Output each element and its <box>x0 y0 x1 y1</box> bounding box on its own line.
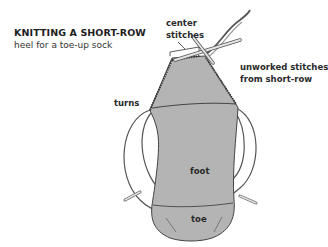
label-toe: toe <box>191 213 207 225</box>
label-center-stitches: center stitches <box>166 17 204 41</box>
label-turns: turns <box>114 97 139 109</box>
label-foot: foot <box>190 165 209 177</box>
label-unworked-stitches: unworked stitches from short-row <box>240 61 328 85</box>
sock-illustration <box>0 0 328 247</box>
